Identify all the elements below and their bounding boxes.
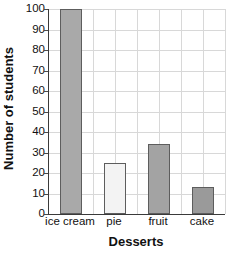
y-tick-label: 20 bbox=[16, 167, 45, 179]
x-tick-label: ice cream bbox=[45, 216, 95, 228]
y-tick-label: 60 bbox=[16, 85, 45, 97]
gridline-vertical bbox=[137, 9, 138, 214]
y-tick-label: 40 bbox=[16, 126, 45, 138]
x-axis-title: Desserts bbox=[48, 234, 224, 249]
x-axis-tick-labels: ice creampiefruitcake bbox=[48, 216, 232, 232]
x-tick-label: cake bbox=[190, 216, 214, 228]
gridline-vertical bbox=[203, 9, 204, 214]
gridline-vertical bbox=[93, 9, 94, 214]
y-tick-label: 0 bbox=[16, 208, 45, 220]
gridline-vertical bbox=[225, 9, 226, 214]
y-tick-label: 80 bbox=[16, 44, 45, 56]
bar bbox=[104, 163, 126, 214]
bar bbox=[192, 187, 214, 214]
x-tick-label: pie bbox=[106, 216, 121, 228]
gridline-vertical bbox=[181, 9, 182, 214]
x-tick-label: fruit bbox=[148, 216, 167, 228]
y-tick-label: 50 bbox=[16, 106, 45, 118]
bar bbox=[148, 144, 170, 214]
y-tick-label: 10 bbox=[16, 188, 45, 200]
y-axis-title: Number of students bbox=[0, 0, 16, 216]
plot-area bbox=[48, 9, 225, 215]
y-axis-tick-labels: 0102030405060708090100 bbox=[16, 0, 45, 224]
bar-chart: Number of students 010203040506070809010… bbox=[0, 0, 232, 254]
y-tick-label: 30 bbox=[16, 147, 45, 159]
y-tick-label: 70 bbox=[16, 65, 45, 77]
y-tick-label: 90 bbox=[16, 24, 45, 36]
y-tick-label: 100 bbox=[16, 3, 45, 15]
y-axis-title-text: Number of students bbox=[1, 47, 16, 170]
bar bbox=[60, 9, 82, 214]
